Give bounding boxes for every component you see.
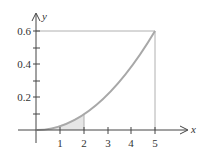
chart-svg: 0.6 0.4 0.2 1 2 3 4 5 x y	[0, 0, 206, 155]
y-tick-label-0.6: 0.6	[17, 25, 31, 37]
chart-figure: 0.6 0.4 0.2 1 2 3 4 5 x y	[0, 0, 206, 155]
x-tick-label-3: 3	[105, 137, 111, 149]
y-axis-label: y	[41, 10, 47, 22]
x-axis-label: x	[190, 123, 196, 135]
curve-line	[37, 31, 155, 130]
x-tick-label-4: 4	[128, 137, 134, 149]
x-tick-label-5: 5	[152, 137, 158, 149]
x-tick-label-1: 1	[57, 137, 63, 149]
x-tick-label-2: 2	[81, 137, 87, 149]
y-tick-label-0.4: 0.4	[17, 58, 31, 70]
y-tick-label-0.2: 0.2	[17, 91, 31, 103]
